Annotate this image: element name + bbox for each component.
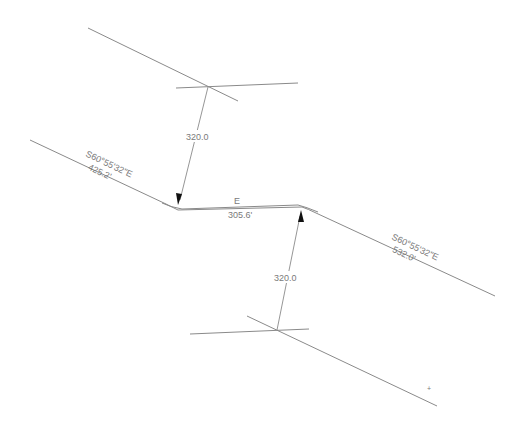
marker-label: + — [427, 385, 431, 392]
bottom-dimension-arrow-icon — [298, 210, 304, 222]
top-dimension-label: 320.0 — [186, 132, 209, 142]
cad-drawing: 320.0 S60°55'32"E 425.2' E 305.6' S60°55… — [0, 0, 512, 423]
left-curve-inner — [162, 203, 182, 209]
bottom-cross-line — [190, 329, 309, 334]
bottom-centerline — [247, 316, 437, 406]
bottom-dimension-label: 320.0 — [274, 273, 297, 283]
middle-bearing-label: E — [234, 196, 240, 206]
top-centerline — [88, 28, 238, 101]
top-dimension-arrow-icon — [176, 193, 182, 205]
middle-length-label: 305.6' — [228, 210, 253, 220]
top-cross-line — [176, 83, 298, 88]
top-dimension-line — [180, 87, 208, 200]
